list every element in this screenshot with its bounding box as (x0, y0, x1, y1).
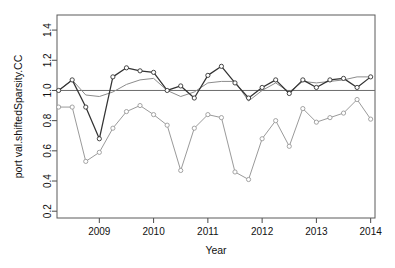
data-point-sparsity-lower-grey (84, 159, 88, 163)
data-point-portfolio-dark (111, 75, 115, 79)
data-point-portfolio-dark (57, 88, 61, 92)
data-point-portfolio-dark (151, 70, 155, 74)
data-point-sparsity-lower-grey (219, 116, 223, 120)
data-point-portfolio-dark (179, 84, 183, 88)
data-point-sparsity-lower-grey (274, 119, 278, 123)
data-point-sparsity-lower-grey (341, 111, 345, 115)
data-point-sparsity-lower-grey (57, 105, 61, 109)
data-point-portfolio-dark (274, 78, 278, 82)
y-tick-label: 1.4 (43, 23, 54, 37)
data-point-portfolio-dark (219, 64, 223, 68)
data-point-portfolio-dark (70, 78, 74, 82)
data-point-portfolio-dark (84, 105, 88, 109)
data-point-portfolio-dark (287, 91, 291, 95)
data-point-portfolio-dark (206, 73, 210, 77)
data-point-sparsity-lower-grey (124, 109, 128, 113)
x-tick-label: 2013 (305, 226, 328, 237)
data-point-portfolio-dark (192, 96, 196, 100)
data-point-portfolio-dark (124, 66, 128, 70)
data-point-sparsity-lower-grey (70, 105, 74, 109)
x-tick-label: 2011 (197, 226, 219, 237)
data-point-sparsity-lower-grey (314, 120, 318, 124)
y-tick-label: 0.4 (43, 174, 54, 188)
data-point-sparsity-lower-grey (328, 116, 332, 120)
x-tick-label: 2012 (251, 226, 274, 237)
data-point-portfolio-dark (301, 78, 305, 82)
data-point-sparsity-lower-grey (97, 150, 101, 154)
data-point-sparsity-lower-grey (369, 117, 373, 121)
data-point-sparsity-lower-grey (355, 97, 359, 101)
data-point-sparsity-lower-grey (138, 103, 142, 107)
data-point-sparsity-lower-grey (192, 126, 196, 130)
x-tick-label: 2010 (142, 226, 165, 237)
data-point-sparsity-lower-grey (111, 126, 115, 130)
x-tick-label: 2014 (360, 226, 383, 237)
y-tick-label: 0.8 (43, 113, 54, 127)
data-point-portfolio-dark (97, 137, 101, 141)
data-point-sparsity-lower-grey (179, 168, 183, 172)
data-point-sparsity-lower-grey (287, 144, 291, 148)
x-axis-title: Year (205, 244, 227, 256)
data-point-portfolio-dark (260, 85, 264, 89)
line-chart: 0.20.40.60.81.01.21.4 200920102011201220… (0, 0, 395, 268)
data-point-portfolio-dark (165, 88, 169, 92)
data-point-portfolio-dark (314, 85, 318, 89)
data-point-sparsity-lower-grey (165, 123, 169, 127)
data-point-portfolio-dark (355, 85, 359, 89)
x-tick-label: 2009 (88, 226, 111, 237)
data-point-portfolio-dark (328, 78, 332, 82)
y-axis-title: port val.shiftedSparsity.CC (12, 54, 24, 178)
data-point-portfolio-dark (138, 69, 142, 73)
y-tick-label: 1.2 (43, 53, 54, 67)
y-tick-label: 0.2 (43, 204, 54, 218)
y-tick-label: 1.0 (43, 83, 54, 97)
data-point-sparsity-lower-grey (260, 137, 264, 141)
data-point-sparsity-lower-grey (151, 113, 155, 117)
chart-container: 0.20.40.60.81.01.21.4 200920102011201220… (0, 0, 395, 268)
data-point-portfolio-dark (246, 96, 250, 100)
data-point-portfolio-dark (341, 76, 345, 80)
data-point-portfolio-dark (369, 75, 373, 79)
data-point-sparsity-lower-grey (206, 113, 210, 117)
data-point-sparsity-lower-grey (246, 177, 250, 181)
data-point-portfolio-dark (233, 81, 237, 85)
y-tick-label: 0.6 (43, 143, 54, 157)
data-point-sparsity-lower-grey (233, 170, 237, 174)
data-point-sparsity-lower-grey (301, 106, 305, 110)
